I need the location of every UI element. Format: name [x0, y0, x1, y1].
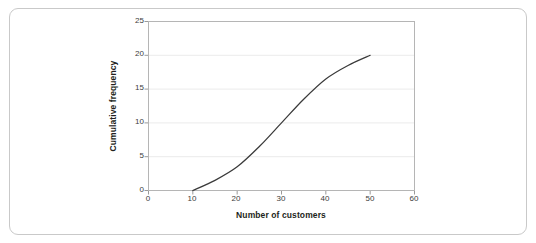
tickmarks-group	[145, 22, 415, 195]
gridlines-group	[149, 22, 415, 157]
cumulative-frequency-chart: Cumulative frequency Number of customers…	[0, 0, 536, 243]
plot-svg	[0, 0, 536, 243]
plot-border	[149, 22, 415, 191]
